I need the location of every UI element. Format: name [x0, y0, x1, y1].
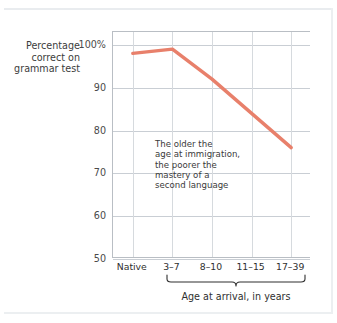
- annotation-line-1: The older the: [155, 139, 247, 149]
- y-axis-tick-label: 70: [50, 167, 106, 178]
- y-axis-tick-label: 100%: [50, 38, 106, 49]
- x-axis-title: Age at arrival, in years: [160, 291, 312, 302]
- figure-frame-right-rule: [331, 8, 333, 314]
- y-axis-title-line-3: grammar test: [2, 63, 80, 75]
- chart-figure: Percentage correct on grammar test 100%9…: [0, 0, 337, 323]
- figure-frame-bottom-rule: [4, 312, 333, 314]
- x-axis-tick-label: 17–39: [260, 261, 320, 272]
- y-axis-tick-label: 80: [50, 124, 106, 135]
- y-axis-tick-label: 60: [50, 210, 106, 221]
- y-axis-tick-label: 90: [50, 81, 106, 92]
- y-axis-title-line-2: correct on: [2, 52, 80, 64]
- figure-frame-top-rule: [4, 8, 333, 10]
- annotation-line-3: the poorer the: [155, 160, 247, 170]
- annotation-line-2: age at immigration,: [155, 149, 247, 159]
- age-range-brace-icon: [165, 274, 307, 288]
- trend-callout-annotation: The older the age at immigration, the po…: [155, 139, 247, 190]
- annotation-line-4: mastery of a: [155, 170, 247, 180]
- y-axis-tick-label: 50: [50, 253, 106, 264]
- annotation-line-5: second language: [155, 180, 247, 190]
- gridline-horizontal: [113, 259, 310, 260]
